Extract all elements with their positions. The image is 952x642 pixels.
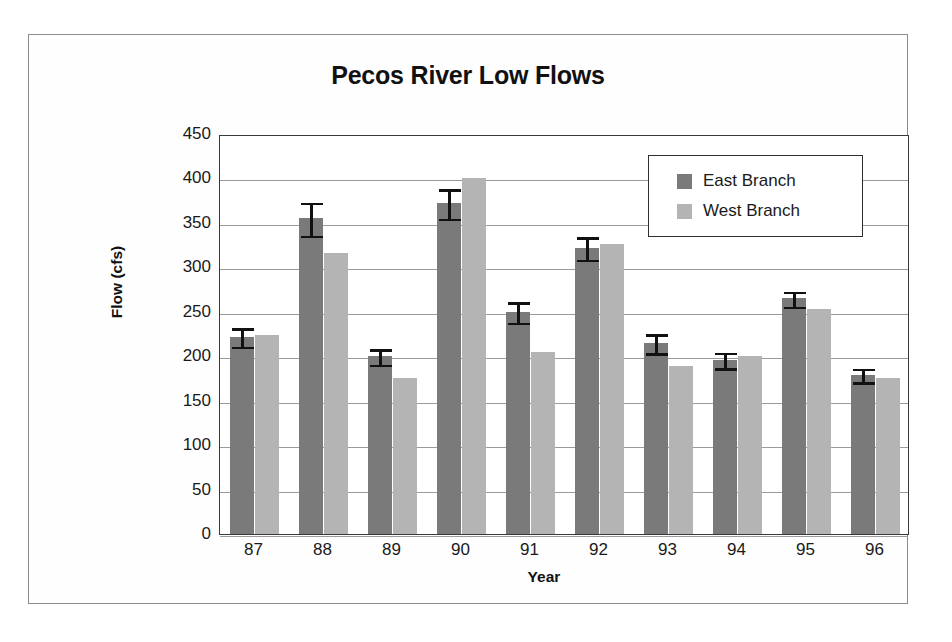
- error-bar-cap-top: [232, 328, 254, 331]
- bar-east-branch-96[interactable]: [851, 375, 875, 534]
- y-tick-label: 200: [141, 346, 211, 366]
- legend-label: West Branch: [703, 201, 800, 221]
- bar-group: [220, 136, 289, 534]
- x-tick-label-96: 96: [840, 540, 909, 560]
- y-tick-label: 150: [141, 391, 211, 411]
- x-tick-label-94: 94: [702, 540, 771, 560]
- x-tick-label-88: 88: [288, 540, 357, 560]
- bar-west-branch-90[interactable]: [462, 178, 486, 534]
- y-tick-label: 100: [141, 435, 211, 455]
- error-bar-91: [518, 302, 519, 325]
- chart-legend: East BranchWest Branch: [648, 155, 863, 237]
- y-axis-tick-labels: 450400350300250200150100500: [139, 135, 211, 535]
- legend-swatch-icon: [677, 174, 692, 189]
- error-bar-cap-bottom: [439, 219, 461, 222]
- error-bar-cap-top: [577, 237, 599, 240]
- error-bar-stem: [310, 203, 313, 239]
- bar-group: [427, 136, 496, 534]
- error-bar-cap-top: [646, 334, 668, 337]
- error-bar-cap-bottom: [577, 260, 599, 263]
- bar-east-branch-91[interactable]: [506, 312, 530, 534]
- error-bar-cap-top: [853, 369, 875, 372]
- error-bar-cap-bottom: [370, 365, 392, 368]
- bar-east-branch-90[interactable]: [437, 203, 461, 534]
- y-axis-title: Flow (cfs): [108, 212, 126, 352]
- error-bar-cap-top: [301, 203, 323, 206]
- chart-title: Pecos River Low Flows: [29, 61, 907, 90]
- y-tick-label: 50: [141, 480, 211, 500]
- bar-east-branch-94[interactable]: [713, 360, 737, 534]
- x-axis-tick-labels: 87888990919293949596: [219, 540, 909, 570]
- x-tick-label-90: 90: [426, 540, 495, 560]
- figure-frame: Pecos River Low Flows Flow (cfs) 4504003…: [28, 34, 908, 604]
- x-tick-label-89: 89: [357, 540, 426, 560]
- legend-label: East Branch: [703, 171, 796, 191]
- bar-west-branch-92[interactable]: [600, 244, 624, 534]
- error-bar-cap-bottom: [715, 368, 737, 371]
- error-bar-cap-bottom: [646, 353, 668, 356]
- x-tick-label-87: 87: [219, 540, 288, 560]
- bar-west-branch-88[interactable]: [324, 253, 348, 534]
- legend-item-west-branch[interactable]: West Branch: [649, 196, 862, 226]
- y-tick-label: 400: [141, 168, 211, 188]
- error-bar-cap-top: [508, 302, 530, 305]
- y-tick-label: 250: [141, 302, 211, 322]
- bar-east-branch-87[interactable]: [230, 337, 254, 534]
- error-bar-92: [587, 237, 588, 262]
- error-bar-94: [725, 353, 726, 371]
- bar-west-branch-89[interactable]: [393, 378, 417, 534]
- bar-east-branch-93[interactable]: [644, 343, 668, 534]
- error-bar-cap-bottom: [853, 382, 875, 385]
- bar-west-branch-95[interactable]: [807, 309, 831, 534]
- error-bar-cap-bottom: [508, 323, 530, 326]
- error-bar-stem: [586, 237, 589, 262]
- error-bar-cap-top: [370, 349, 392, 352]
- bar-west-branch-91[interactable]: [531, 352, 555, 534]
- error-bar-95: [794, 292, 795, 310]
- bar-group: [358, 136, 427, 534]
- error-bar-90: [449, 189, 450, 221]
- bar-west-branch-96[interactable]: [876, 378, 900, 534]
- x-tick-label-91: 91: [495, 540, 564, 560]
- bar-west-branch-87[interactable]: [255, 335, 279, 534]
- y-tick-label: 0: [141, 524, 211, 544]
- bar-east-branch-88[interactable]: [299, 218, 323, 534]
- error-bar-cap-bottom: [301, 236, 323, 239]
- error-bar-stem: [448, 189, 451, 221]
- bar-group: [565, 136, 634, 534]
- bar-west-branch-94[interactable]: [738, 356, 762, 534]
- error-bar-88: [311, 203, 312, 239]
- bar-group: [289, 136, 358, 534]
- error-bar-cap-top: [784, 292, 806, 295]
- legend-swatch-icon: [677, 204, 692, 219]
- bar-east-branch-95[interactable]: [782, 298, 806, 534]
- legend-item-east-branch[interactable]: East Branch: [649, 166, 862, 196]
- bar-east-branch-92[interactable]: [575, 248, 599, 534]
- y-tick-label: 450: [141, 124, 211, 144]
- gridline: [220, 536, 908, 537]
- x-tick-label-95: 95: [771, 540, 840, 560]
- bar-west-branch-93[interactable]: [669, 366, 693, 534]
- error-bar-cap-top: [715, 353, 737, 356]
- error-bar-cap-bottom: [232, 347, 254, 350]
- bar-east-branch-89[interactable]: [368, 356, 392, 534]
- error-bar-87: [242, 328, 243, 349]
- bar-group: [496, 136, 565, 534]
- error-bar-93: [656, 334, 657, 355]
- error-bar-89: [380, 349, 381, 367]
- error-bar-96: [863, 369, 864, 385]
- y-tick-label: 350: [141, 213, 211, 233]
- error-bar-cap-top: [439, 189, 461, 192]
- x-tick-label-93: 93: [633, 540, 702, 560]
- x-axis-title: Year: [184, 568, 904, 586]
- error-bar-cap-bottom: [784, 307, 806, 310]
- y-tick-label: 300: [141, 257, 211, 277]
- x-tick-label-92: 92: [564, 540, 633, 560]
